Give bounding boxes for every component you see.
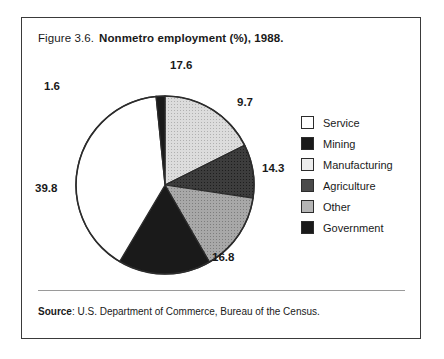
value-label-agriculture: 9.7: [237, 96, 253, 108]
legend-swatch-manufacturing: [301, 158, 314, 171]
legend-item-government: Government: [301, 217, 416, 238]
legend-swatch-agriculture: [301, 179, 314, 192]
source-text: : U.S. Department of Commerce, Bureau of…: [72, 306, 320, 317]
value-label-government: 1.6: [44, 80, 60, 92]
chart-area: 17.6 9.7 14.3 16.8 39.8 1.6 Service Mini…: [22, 54, 420, 286]
legend-item-service: Service: [301, 112, 416, 133]
value-label-mining: 16.8: [212, 251, 234, 263]
legend-item-other: Other: [301, 196, 416, 217]
legend-label-mining: Mining: [323, 138, 355, 150]
source-note: Source: U.S. Department of Commerce, Bur…: [38, 306, 320, 317]
source-label: Source: [38, 306, 72, 317]
legend-item-mining: Mining: [301, 133, 416, 154]
figure-number: Figure 3.6.: [38, 32, 94, 44]
pie-slice-group: [76, 96, 254, 274]
legend-label-manufacturing: Manufacturing: [323, 159, 393, 171]
value-label-manufacturing: 14.3: [262, 162, 284, 174]
value-label-service: 39.8: [35, 182, 57, 194]
legend-label-government: Government: [323, 222, 384, 234]
legend-item-manufacturing: Manufacturing: [301, 154, 416, 175]
value-label-other: 17.6: [170, 59, 192, 71]
legend-swatch-service: [301, 116, 314, 129]
legend-label-service: Service: [323, 117, 360, 129]
legend-label-other: Other: [323, 201, 351, 213]
legend-swatch-government: [301, 221, 314, 234]
chart-legend: Service Mining Manufacturing Agriculture…: [301, 112, 416, 238]
legend-swatch-mining: [301, 137, 314, 150]
legend-swatch-other: [301, 200, 314, 213]
page-title: Figure 3.6.Nonmetro employment (%), 1988…: [38, 32, 284, 44]
source-divider: [38, 290, 405, 291]
figure-frame: Figure 3.6.Nonmetro employment (%), 1988…: [21, 17, 421, 339]
figure-page: Figure 3.6.Nonmetro employment (%), 1988…: [0, 0, 444, 359]
figure-title: Nonmetro employment (%), 1988.: [99, 32, 283, 44]
legend-label-agriculture: Agriculture: [323, 180, 376, 192]
legend-item-agriculture: Agriculture: [301, 175, 416, 196]
